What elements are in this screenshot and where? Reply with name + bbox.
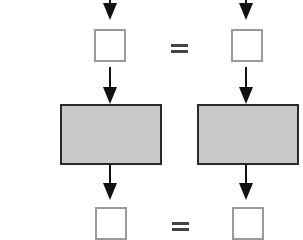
right-middle-arrowhead-icon [239, 87, 253, 104]
left-output-arrow-line [109, 165, 111, 185]
left-output-arrowhead-icon [103, 183, 117, 200]
left-middle-arrow-line [109, 67, 111, 89]
left-output-square [95, 207, 127, 240]
right-output-arrowhead-icon [239, 183, 253, 200]
right-middle-arrow-line [245, 67, 247, 89]
right-output-square [232, 207, 264, 240]
right-input-arrowhead-icon [239, 3, 253, 20]
left-input-square [94, 29, 126, 62]
right-input-square [231, 29, 263, 62]
right-process-box [197, 104, 299, 165]
top-equals-sign-icon [171, 44, 188, 53]
left-input-arrowhead-icon [103, 3, 117, 20]
right-output-arrow-line [245, 165, 247, 185]
left-middle-arrowhead-icon [103, 87, 117, 104]
bottom-equals-sign-icon [172, 222, 189, 231]
left-process-box [60, 104, 162, 165]
